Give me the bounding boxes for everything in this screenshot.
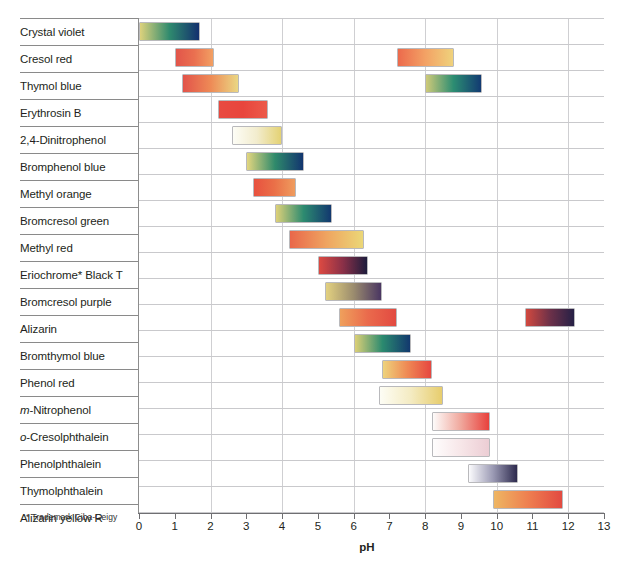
x-axis-tick [425,514,426,519]
row-separator [139,122,604,123]
indicator-range-bar [175,48,214,67]
indicator-range-bar [246,152,303,171]
x-axis-tick [175,514,176,519]
x-axis-tick-label: 13 [592,520,616,532]
indicator-range-bar [493,490,563,509]
row-separator [139,18,604,19]
indicator-range-bar [318,256,368,275]
indicator-range-bar [253,178,296,197]
row-label: Eriochrome* Black T [20,261,138,288]
row-separator [139,356,604,357]
row-separator [139,44,604,45]
gridline [282,18,283,512]
row-separator [139,252,604,253]
row-label: Alizarin [20,315,138,342]
x-axis-tick [211,514,212,519]
x-axis-tick-label: 7 [377,520,401,532]
row-label: Phenol red [20,369,138,396]
row-label: Bromcresol purple [20,288,138,315]
x-axis-tick [461,514,462,519]
indicator-range-bar [432,412,489,431]
x-axis-title: pH [0,541,624,553]
x-axis-tick-label: 4 [270,520,294,532]
x-axis-tick [246,514,247,519]
row-separator [139,148,604,149]
row-label: o-Cresolphthalein [20,423,138,450]
row-label: Erythrosin B [20,99,138,126]
row-separator [139,278,604,279]
x-axis-tick [354,514,355,519]
row-label: Thymolphthalein [20,477,138,504]
indicator-range-bar [432,438,489,457]
plot-area [139,18,604,512]
ph-indicator-chart: Crystal violetCresol redThymol blueEryth… [0,0,624,573]
x-axis-tick-label: 5 [306,520,330,532]
row-label: Phenolphthalein [20,450,138,477]
footnote: * Trademark Ciba-Geigy [26,512,117,522]
row-label: Bromthymol blue [20,342,138,369]
row-separator [139,408,604,409]
indicator-range-bar [218,100,268,119]
row-label: Crystal violet [20,18,138,45]
row-separator [139,382,604,383]
gridline [568,18,569,512]
x-axis-tick-label: 6 [342,520,366,532]
x-axis-tick-label: 1 [163,520,187,532]
x-axis-tick-label: 9 [449,520,473,532]
x-axis-tick-label: 8 [413,520,437,532]
x-axis-tick-label: 0 [127,520,151,532]
x-axis-tick [318,514,319,519]
indicator-range-bar [339,308,396,327]
row-label: Bromcresol green [20,207,138,234]
indicator-range-bar [275,204,332,223]
indicator-label-column: Crystal violetCresol redThymol blueEryth… [20,18,138,531]
indicator-range-bar [382,360,432,379]
row-separator [139,304,604,305]
row-separator [139,174,604,175]
x-axis-tick-label: 11 [520,520,544,532]
row-label: Cresol red [20,45,138,72]
gridline [497,18,498,512]
row-separator [139,434,604,435]
indicator-range-bar [232,126,282,145]
row-separator [139,330,604,331]
x-axis-tick-label: 3 [234,520,258,532]
indicator-range-bar [397,48,454,67]
x-axis-tick [389,514,390,519]
x-axis-tick [139,514,140,519]
indicator-range-bar [379,386,443,405]
row-label: Methyl red [20,234,138,261]
row-label: Thymol blue [20,72,138,99]
row-separator [139,200,604,201]
indicator-range-bar [182,74,239,93]
x-axis-tick [568,514,569,519]
x-axis-tick-label: 12 [556,520,580,532]
x-axis-tick [497,514,498,519]
row-separator [139,460,604,461]
indicator-range-bar [525,308,575,327]
x-axis-line [138,513,605,514]
row-separator [139,96,604,97]
row-separator [139,226,604,227]
x-axis-tick [282,514,283,519]
row-separator [139,70,604,71]
x-axis-tick [604,514,605,519]
row-label: Methyl orange [20,180,138,207]
indicator-range-bar [325,282,382,301]
x-axis-tick-label: 2 [199,520,223,532]
x-axis-tick-label: 10 [485,520,509,532]
indicator-range-bar [354,334,411,353]
row-label: m-Nitrophenol [20,396,138,423]
indicator-range-bar [139,22,200,41]
x-axis-tick [532,514,533,519]
indicator-range-bar [468,464,518,483]
indicator-range-bar [289,230,364,249]
row-label: Bromphenol blue [20,153,138,180]
row-label: 2,4-Dinitrophenol [20,126,138,153]
indicator-range-bar [425,74,482,93]
row-separator [139,486,604,487]
